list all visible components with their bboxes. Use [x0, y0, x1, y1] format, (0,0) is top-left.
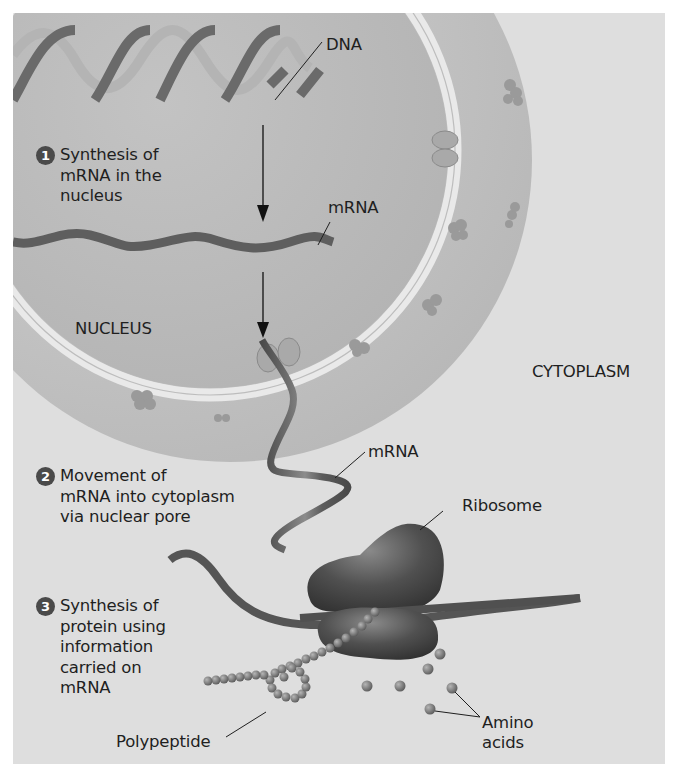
mrna-nucleus-label: mRNA [328, 198, 378, 218]
dna-label: DNA [326, 35, 362, 55]
step-2-line: Movement of [60, 466, 235, 487]
step-1-badge: 1 [36, 146, 55, 165]
mrna-cytoplasm-leader-line [335, 452, 365, 478]
step-1: 1 Synthesis of mRNA in the nucleus [36, 145, 162, 207]
step-3-line: carried on [60, 658, 166, 679]
step-1-text: Synthesis of mRNA in the nucleus [60, 145, 162, 207]
step-2: 2 Movement of mRNA into cytoplasm via nu… [36, 466, 235, 528]
ribosome-label: Ribosome [462, 496, 542, 516]
step-1-line: nucleus [60, 186, 162, 207]
cytoplasm-region-label: CYTOPLASM [532, 362, 630, 382]
mrna-cytoplasm-label: mRNA [368, 442, 418, 462]
step-2-badge: 2 [36, 467, 55, 486]
step-3-line: information [60, 637, 166, 658]
amino-acids-label-line2: acids [482, 733, 534, 753]
ribosome-large-subunit [307, 524, 443, 613]
polypeptide-label: Polypeptide [116, 732, 210, 752]
amino-acids-leader-lines [435, 692, 480, 717]
amino-acids-label-line1: Amino [482, 713, 534, 733]
amino-acids-label: Amino acids [482, 713, 534, 753]
step-3-line: mRNA [60, 678, 166, 699]
step-3-text: Synthesis of protein using information c… [60, 596, 166, 699]
step-2-text: Movement of mRNA into cytoplasm via nucl… [60, 466, 235, 528]
step-3-line: protein using [60, 617, 166, 638]
step-1-line: mRNA in the [60, 166, 162, 187]
ribosome-leader-line [420, 511, 443, 530]
polypeptide-leader-line [226, 712, 266, 737]
step-2-line: via nuclear pore [60, 507, 235, 528]
step-3: 3 Synthesis of protein using information… [36, 596, 166, 699]
diagram-panel: DNA mRNA NUCLEUS CYTOPLASM mRNA Ribosome… [13, 13, 665, 764]
step-3-line: Synthesis of [60, 596, 166, 617]
nucleus-region-label: NUCLEUS [75, 319, 152, 339]
step-2-line: mRNA into cytoplasm [60, 487, 235, 508]
step-1-line: Synthesis of [60, 145, 162, 166]
step-3-badge: 3 [36, 597, 55, 616]
